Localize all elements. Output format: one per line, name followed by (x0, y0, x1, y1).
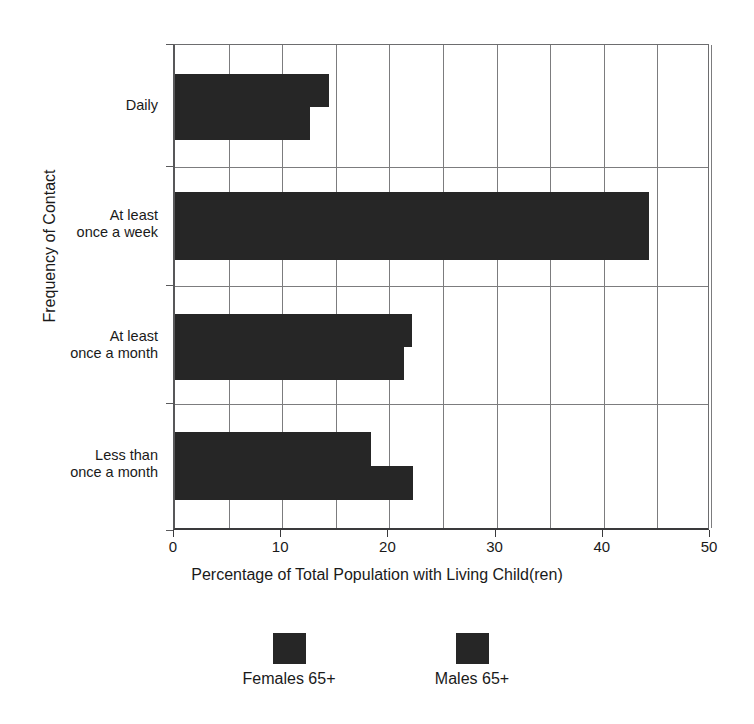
x-tick-label: 50 (679, 538, 739, 555)
category-separator (175, 286, 708, 287)
y-category-label: Daily (0, 97, 158, 114)
category-separator (175, 404, 708, 405)
gridline-vertical (711, 45, 712, 528)
bar (175, 74, 329, 107)
bar (175, 347, 404, 380)
x-tick-label: 10 (250, 538, 310, 555)
plot-area (173, 44, 709, 530)
x-tick-label: 30 (465, 538, 525, 555)
legend-swatch (456, 633, 489, 664)
bar (175, 432, 371, 466)
x-axis-title: Percentage of Total Population with Livi… (0, 566, 754, 584)
x-tick-label: 40 (572, 538, 632, 555)
legend-label: Females 65+ (199, 670, 379, 688)
category-separator (175, 167, 708, 168)
x-tick-label: 20 (357, 538, 417, 555)
y-category-label: At least once a month (0, 328, 158, 362)
legend-entry: Females 65+ (199, 633, 379, 688)
x-tick-mark (602, 530, 603, 537)
x-tick-mark (709, 530, 710, 537)
x-tick-mark (495, 530, 496, 537)
y-category-label: At least once a week (0, 207, 158, 241)
x-tick-label: 0 (143, 538, 203, 555)
bar (175, 192, 649, 226)
x-tick-mark (173, 530, 174, 537)
bar-chart-figure: Frequency of Contact DailyAt least once … (0, 0, 754, 724)
legend-label: Males 65+ (382, 670, 562, 688)
x-tick-mark (387, 530, 388, 537)
x-tick-mark (280, 530, 281, 537)
legend-entry: Males 65+ (382, 633, 562, 688)
bar (175, 314, 412, 347)
bar (175, 107, 310, 140)
chart-legend: Females 65+Males 65+ (0, 630, 754, 710)
bar (175, 466, 413, 500)
legend-swatch (273, 633, 306, 664)
y-category-label: Less than once a month (0, 447, 158, 481)
bar (175, 226, 649, 260)
